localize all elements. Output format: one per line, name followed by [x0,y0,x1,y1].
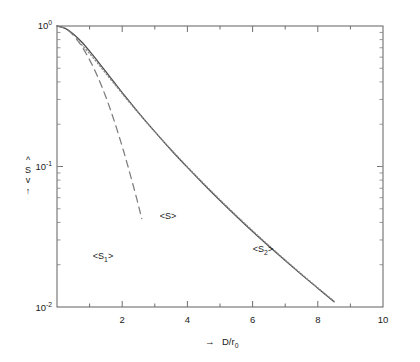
y-axis-arrow-icon: ↑ [26,186,31,196]
y-tick-label-1e0: 100 [38,19,53,31]
semilog-plot: 100 10-1 10-2 246810 ^ S v ↑ → D/r0 <S1> [0,0,420,362]
curve-s1 [57,26,142,219]
axes-frame [57,26,383,307]
x-tick-label-6: 6 [250,314,255,325]
y-axis-title-char-close: v [26,175,31,185]
tick-marks [57,26,383,307]
curve-s2 [77,39,335,301]
annotation-s1: <S1> [93,251,113,263]
y-axis-title-char-open: ^ [26,155,31,165]
plot-frame [57,26,383,307]
annotation-s: <S> [160,211,177,221]
y-tick-labels: 100 10-1 10-2 [35,19,52,313]
annotation-s2: <S2> [253,244,273,256]
y-tick-label-1e-1: 10-1 [35,160,52,172]
curve-annotations: <S1><S><S2> [93,211,273,263]
x-tick-label-8: 8 [315,314,320,325]
x-axis-title-text: D/r0 [222,336,239,349]
x-tick-label-2: 2 [120,314,125,325]
x-tick-labels: 246810 [120,314,389,325]
figure-container: 100 10-1 10-2 246810 ^ S v ↑ → D/r0 <S1> [0,0,420,362]
x-axis-arrow-icon: → [205,336,215,347]
y-axis-title: ^ S v ↑ [25,155,31,196]
x-tick-label-10: 10 [378,314,389,325]
y-axis-title-char-s: S [25,165,31,175]
x-axis-title: → D/r0 [205,336,239,349]
y-tick-label-1e-2: 10-2 [35,301,52,313]
x-tick-label-4: 4 [185,314,190,325]
